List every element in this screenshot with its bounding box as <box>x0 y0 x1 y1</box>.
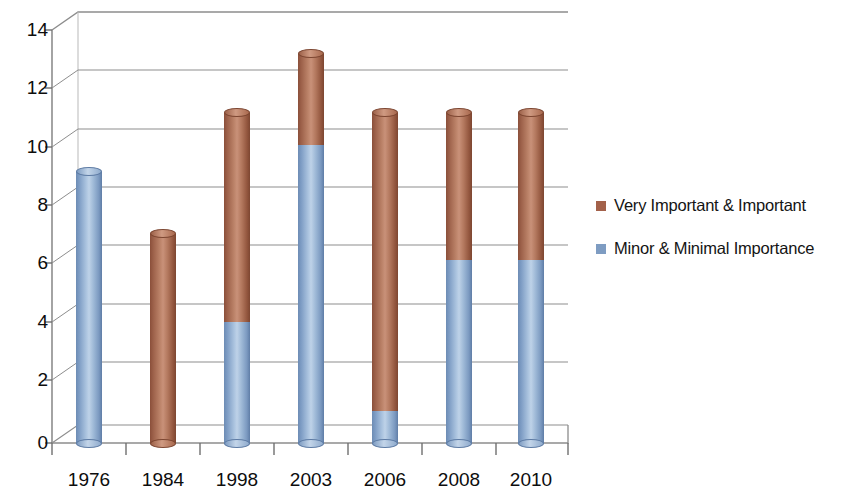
bar-base-ellipse-icon <box>224 439 250 448</box>
legend-item-minor-minimal: Minor & Minimal Importance <box>596 239 848 258</box>
bar-column-1984 <box>150 234 176 443</box>
bar-column-2006 <box>372 113 398 443</box>
plot-area: 14 12 10 8 6 4 2 0 197619841998200320062… <box>0 0 600 490</box>
bar-top-ellipse-icon <box>446 108 472 117</box>
x-tick-2010: 2010 <box>510 469 552 490</box>
x-tick-2008: 2008 <box>438 469 480 490</box>
bar-segment-very-important-2006 <box>372 113 398 411</box>
legend-item-very-important: Very Important & Important <box>596 196 848 215</box>
bar-segment-very-important-2010 <box>518 113 544 261</box>
bar-column-2010 <box>518 113 544 443</box>
bar-top-ellipse-icon <box>76 167 102 176</box>
bar-segment-minor-minimal-2006 <box>372 411 398 443</box>
x-tick-1976: 1976 <box>68 469 110 490</box>
bar-segment-minor-minimal-2003 <box>298 145 324 443</box>
bar-column-2003 <box>298 54 324 443</box>
bar-top-ellipse-icon <box>372 108 398 117</box>
x-tick-1984: 1984 <box>142 469 184 490</box>
legend-label-minor-minimal: Minor & Minimal Importance <box>614 239 814 258</box>
chart-legend: Very Important & Important Minor & Minim… <box>596 196 848 282</box>
bar-base-ellipse-icon <box>518 439 544 448</box>
bar-segment-minor-minimal-1998 <box>224 322 250 443</box>
bar-segment-very-important-2003 <box>298 54 324 145</box>
bar-column-1998 <box>224 113 250 443</box>
bar-series-layer <box>0 0 600 490</box>
bar-segment-minor-minimal-2010 <box>518 260 544 443</box>
bar-segment-minor-minimal-2008 <box>446 260 472 443</box>
stacked-bar-chart: 14 12 10 8 6 4 2 0 197619841998200320062… <box>0 0 848 490</box>
bar-base-ellipse-icon <box>298 439 324 448</box>
legend-swatch-icon-very-important <box>596 201 606 211</box>
x-tick-2003: 2003 <box>290 469 332 490</box>
bar-base-ellipse-icon <box>150 439 176 448</box>
legend-swatch-icon-minor-minimal <box>596 244 606 254</box>
bar-column-1976 <box>76 172 102 443</box>
bar-top-ellipse-icon <box>298 49 324 58</box>
bar-base-ellipse-icon <box>446 439 472 448</box>
bar-top-ellipse-icon <box>518 108 544 117</box>
bar-top-ellipse-icon <box>224 108 250 117</box>
bar-top-ellipse-icon <box>150 229 176 238</box>
bar-base-ellipse-icon <box>372 439 398 448</box>
bar-column-2008 <box>446 113 472 443</box>
x-tick-1998: 1998 <box>216 469 258 490</box>
x-axis-tick-labels: 1976198419982003200620082010 <box>0 455 600 490</box>
bar-segment-minor-minimal-1976 <box>76 172 102 443</box>
bar-segment-very-important-1984 <box>150 234 176 443</box>
x-tick-2006: 2006 <box>364 469 406 490</box>
legend-label-very-important: Very Important & Important <box>614 196 806 215</box>
bar-segment-very-important-2008 <box>446 113 472 261</box>
bar-base-ellipse-icon <box>76 439 102 448</box>
bar-segment-very-important-1998 <box>224 113 250 322</box>
